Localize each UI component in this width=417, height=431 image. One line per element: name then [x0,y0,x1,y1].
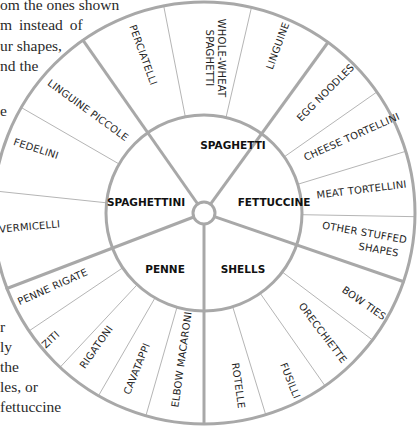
group-label-spaghettini: SPAGHETTINI [107,196,185,208]
pasta-wheel-diagram: SPAGHETTI FETTUCCINE SHELLS PENNE SPAGHE… [0,0,417,431]
group-label-fettuccine: FETTUCCINE [238,196,311,208]
group-label-shells: SHELLS [221,263,265,275]
label-whole-wheat-2: SPAGHETTI [204,30,215,87]
label-whole-wheat-1: WHOLE-WHEAT [216,19,227,98]
group-label-spaghetti: SPAGHETTI [200,139,265,151]
hub-circle [193,202,215,224]
group-label-penne: PENNE [145,263,185,275]
